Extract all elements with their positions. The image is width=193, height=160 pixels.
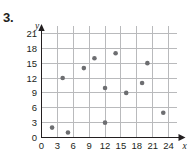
y-tick-label: 6	[32, 102, 37, 113]
x-axis-arrow	[179, 134, 186, 141]
x-axis-tick-labels: 03691215182124	[39, 140, 174, 151]
x-tick-label: 18	[132, 140, 143, 151]
x-tick-label: 12	[100, 140, 111, 151]
x-tick-label: 24	[163, 140, 174, 151]
y-axis-tick-labels: 036912151821	[26, 28, 37, 143]
x-tick-label: 15	[116, 140, 127, 151]
data-point	[60, 76, 65, 81]
y-tick-label: 18	[26, 43, 37, 54]
x-tick-label: 21	[147, 140, 158, 151]
data-point	[66, 130, 71, 135]
scatter-plot-svg: 03691215182124 036912151821 x y	[0, 0, 193, 160]
x-tick-label: 0	[39, 140, 44, 151]
y-tick-label: 3	[32, 117, 37, 128]
y-tick-label: 12	[26, 73, 37, 84]
grid-lines	[42, 26, 177, 138]
data-point	[140, 81, 145, 86]
x-axis-label: x	[181, 141, 187, 151]
data-point	[103, 120, 108, 125]
data-point	[113, 51, 118, 56]
data-point	[103, 86, 108, 91]
data-point	[50, 125, 55, 130]
scatter-plot-figure: 3. 03691215182124 036912151821 x y	[0, 0, 193, 160]
x-tick-label: 3	[55, 140, 60, 151]
y-axis-arrow	[38, 24, 44, 31]
data-point	[145, 61, 150, 66]
axis-lines	[38, 24, 185, 141]
data-point	[124, 91, 129, 96]
x-tick-label: 6	[71, 140, 76, 151]
y-tick-label: 15	[26, 58, 37, 69]
x-tick-label: 9	[86, 140, 91, 151]
data-point	[161, 110, 166, 115]
y-tick-label: 0	[32, 132, 37, 143]
y-tick-label: 9	[32, 87, 37, 98]
y-axis-label: y	[34, 21, 40, 31]
data-point	[82, 66, 87, 71]
data-point	[92, 56, 97, 61]
